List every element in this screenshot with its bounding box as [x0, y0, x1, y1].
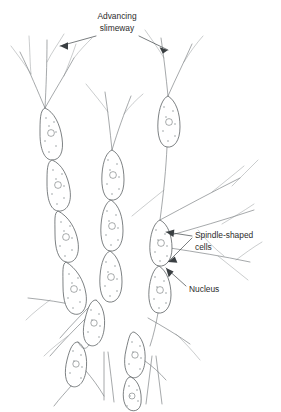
spindle-cell-labelled-lower — [149, 266, 171, 346]
diagram-figure: Advancing slimeway Spindle-shaped cells … — [0, 0, 281, 412]
spindle-cell-labelled-upper — [150, 220, 172, 266]
spindle-cell-chain-bottom-center — [123, 332, 166, 411]
label-advancing-line1: Advancing — [97, 11, 136, 21]
spindle-cell-chain-center — [100, 150, 124, 302]
label-spindle-line1: Spindle-shaped — [195, 230, 254, 240]
label-advancing-slimeway: Advancing slimeway — [97, 11, 136, 33]
spindle-cell-right-upper — [132, 96, 180, 220]
label-nucleus: Nucleus — [189, 284, 219, 294]
nucleus-target — [157, 287, 164, 294]
label-spindle-line2: cells — [195, 242, 212, 252]
label-spindle-shaped-cells: Spindle-shaped cells — [195, 230, 254, 252]
spindle-cell-chain-left — [40, 108, 86, 314]
label-nucleus-text: Nucleus — [189, 284, 219, 294]
spindle-cell-chain-bottom-left — [54, 300, 105, 406]
label-advancing-line2: slimeway — [100, 23, 135, 33]
